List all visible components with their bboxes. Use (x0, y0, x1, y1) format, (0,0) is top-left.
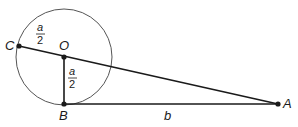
point-o (61, 54, 66, 59)
fraction-ob-numerator: a (69, 65, 75, 77)
geometry-diagram: C O B A a 2 a 2 b (0, 0, 298, 127)
fraction-label-co: a 2 (36, 21, 45, 46)
label-o: O (59, 38, 69, 53)
point-c (16, 43, 21, 48)
fraction-co-denominator: 2 (37, 34, 43, 46)
label-a: A (282, 96, 292, 111)
fraction-label-ob: a 2 (68, 65, 77, 90)
fraction-ob-denominator: 2 (69, 78, 75, 90)
fraction-co-numerator: a (37, 21, 43, 33)
segment-c-a (19, 46, 278, 104)
point-a (275, 101, 280, 106)
label-c: C (5, 38, 15, 53)
label-b-length: b (164, 108, 171, 123)
label-b: B (59, 108, 68, 123)
point-b (61, 101, 66, 106)
